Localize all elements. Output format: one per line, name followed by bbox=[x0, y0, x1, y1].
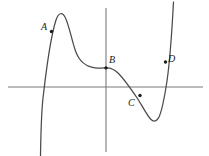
point-marker-a bbox=[50, 30, 53, 33]
point-label-c: C bbox=[128, 98, 135, 108]
coordinate-plane bbox=[0, 0, 209, 156]
point-label-d: D bbox=[168, 54, 175, 64]
point-marker-d bbox=[164, 60, 167, 63]
point-marker-c bbox=[138, 94, 141, 97]
point-marker-b bbox=[104, 66, 107, 69]
point-label-a: A bbox=[41, 22, 47, 32]
cubic-curve bbox=[41, 2, 174, 156]
point-label-b: B bbox=[109, 55, 115, 65]
graph-figure: A B C D bbox=[0, 0, 209, 156]
